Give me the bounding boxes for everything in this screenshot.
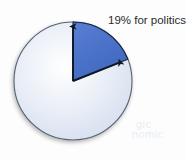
- slice-label-politics: 19% for politics: [108, 14, 186, 27]
- pie-chart-figure: gic nomic: [0, 0, 186, 160]
